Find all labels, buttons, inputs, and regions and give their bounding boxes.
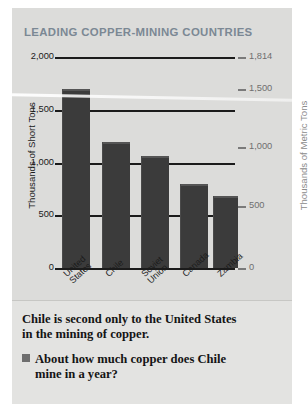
y-axis-label-left: Thousands of Short Tons — [26, 71, 37, 241]
caption-line-1: Chile is second only to the United State… — [22, 312, 236, 326]
ytick-left-0: 0 — [14, 262, 54, 272]
caption-line-2: in the mining of copper. — [22, 327, 149, 341]
bar-highlight — [142, 156, 169, 158]
ytick-dash-left-1000 — [55, 163, 62, 165]
bar-united-states — [62, 89, 90, 268]
ytick-right-1814: 1,814 — [249, 51, 289, 61]
question-line-2: mine in a year? — [35, 367, 286, 382]
glare-streak — [12, 93, 292, 101]
question-line-1: About how much copper does Chile — [35, 352, 226, 366]
bar-highlight — [103, 142, 130, 144]
caption-divider — [12, 300, 292, 301]
ytick-right-0: 0 — [249, 262, 289, 272]
ytick-right-1000: 1,000 — [249, 141, 289, 151]
ytick-right-1500: 1,500 — [249, 83, 289, 93]
ytick-dash-right-1000 — [238, 147, 246, 149]
ytick-dash-right-0 — [238, 268, 246, 270]
caption-statement: Chile is second only to the United State… — [22, 312, 284, 343]
ytick-dash-right-500 — [238, 206, 246, 208]
bar-highlight — [181, 184, 208, 186]
ytick-dash-right-1814 — [238, 57, 246, 59]
bar-highlight — [63, 89, 90, 91]
ytick-dash-left-2000 — [55, 57, 62, 59]
ytick-dash-left-0 — [55, 268, 62, 270]
chart-figure: LEADING COPPER-MINING COUNTRIES 2,000 1,… — [0, 0, 304, 412]
square-bullet-icon — [22, 354, 30, 362]
plot-area: 2,000 1,500 1,000 500 0 1,814 1,500 1,00… — [0, 0, 304, 300]
gridline-2000 — [60, 57, 235, 59]
ytick-right-500: 500 — [249, 200, 289, 210]
ytick-left-2000: 2,000 — [14, 51, 54, 61]
caption-question: About how much copper does Chile mine in… — [22, 352, 286, 383]
y-axis-label-right: Thousands of Metric Tons — [298, 71, 305, 241]
ytick-dash-right-1500 — [238, 89, 246, 91]
ytick-dash-left-1500 — [55, 110, 62, 112]
bar-highlight — [214, 196, 238, 198]
ytick-dash-left-500 — [55, 215, 62, 217]
